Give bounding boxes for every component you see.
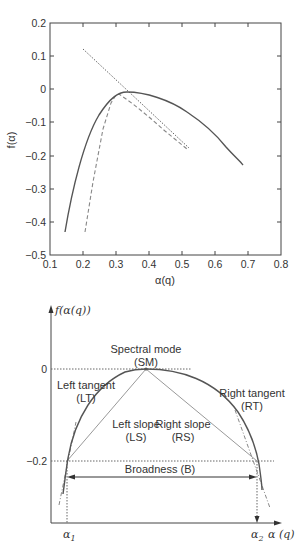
y-tick-label: 0.2 — [31, 17, 46, 29]
x-axis-arrow-icon — [274, 521, 282, 526]
right-tangent-abbr: (RT) — [241, 400, 263, 412]
dotted-tangent-line — [83, 49, 189, 148]
spectral-mode-abbr: (SM) — [134, 356, 158, 368]
left-tangent-abbr: (LT) — [76, 392, 95, 404]
broadness-right-arrow-icon — [249, 475, 257, 480]
x-tick-label: 0.4 — [142, 258, 157, 270]
y-tick-label: −0.4 — [25, 216, 46, 228]
x-tick-label: 0.7 — [241, 258, 256, 270]
bottom-diagram: f(α(q)) 0 −0.2 Spectral mode (SM) Left t… — [26, 304, 294, 543]
top-chart: 0.1 0.2 0.3 0.4 0.5 0.6 0.7 0.8 0.2 0.1 … — [5, 17, 288, 286]
top-x-tick-marks — [83, 23, 248, 255]
alpha2-subscript: 2 — [257, 534, 263, 543]
x-tick-label: 0.5 — [175, 258, 190, 270]
broadness-left-arrow-icon — [67, 475, 75, 480]
right-tangent-line — [235, 410, 270, 508]
y-axis-arrow-icon — [49, 305, 54, 313]
broadness-label: Broadness (B) — [125, 463, 195, 475]
solid-spectrum-curve — [65, 92, 243, 232]
figure: 0.1 0.2 0.3 0.4 0.5 0.6 0.7 0.8 0.2 0.1 … — [0, 0, 304, 559]
right-slope-abbr: (RS) — [172, 431, 195, 443]
right-slope-label: Right slope — [155, 418, 210, 430]
y-level-minus-0.2-label: −0.2 — [26, 455, 47, 467]
top-x-axis-label: α(q) — [155, 274, 175, 286]
left-slope-label: Left slope — [112, 418, 160, 430]
top-y-tick-marks — [50, 56, 281, 222]
alpha1-label: α1 — [63, 528, 76, 543]
alpha2-arrow-icon — [255, 516, 260, 523]
top-x-tick-labels: 0.1 0.2 0.3 0.4 0.5 0.6 0.7 0.8 — [43, 258, 289, 270]
alpha2-label: α2 — [251, 528, 264, 543]
x-tick-label: 0.3 — [109, 258, 124, 270]
y-tick-label: 0.1 — [31, 50, 46, 62]
left-tangent-label: Left tangent — [57, 379, 115, 391]
spectral-mode-label: Spectral mode — [111, 343, 182, 355]
x-tick-label: 0.6 — [208, 258, 223, 270]
bottom-y-axis-label: f(α(q)) — [54, 304, 91, 317]
x-tick-label: 0.8 — [274, 258, 289, 270]
y-level-0-label: 0 — [41, 363, 47, 375]
y-tick-label: −0.1 — [25, 116, 46, 128]
top-y-tick-labels: 0.2 0.1 0 −0.1 −0.2 −0.3 −0.4 −0.5 — [25, 17, 46, 261]
x-tick-label: 0.2 — [76, 258, 91, 270]
y-tick-label: −0.3 — [25, 183, 46, 195]
y-tick-label: −0.2 — [25, 150, 46, 162]
y-tick-label: 0 — [40, 83, 46, 95]
bottom-x-axis-label: α (q) — [268, 528, 295, 541]
alpha1-subscript: 1 — [70, 534, 75, 543]
y-tick-label: −0.5 — [25, 249, 46, 261]
right-tangent-label: Right tangent — [219, 387, 284, 399]
top-y-axis-label: f(α) — [5, 132, 17, 149]
top-axes-frame — [50, 23, 281, 255]
left-slope-abbr: (LS) — [126, 431, 147, 443]
dashed-curve — [85, 94, 187, 232]
